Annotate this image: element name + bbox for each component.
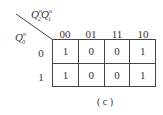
- cell-r1-c2: 0: [105, 64, 131, 88]
- cell-r0-c0: 1: [53, 40, 79, 64]
- row-header-1: 1: [36, 71, 46, 83]
- figure-caption: ( c ): [80, 96, 130, 107]
- row-variable-label: Qn0: [15, 31, 25, 45]
- cell-r0-c1: 0: [79, 40, 105, 64]
- cell-r0-c2: 0: [105, 40, 131, 64]
- column-variables-label: Qn2Qn1: [31, 8, 51, 22]
- cell-r1-c1: 0: [79, 64, 105, 88]
- karnaugh-map-grid: 1 0 0 1 1 0 0 1: [52, 39, 156, 87]
- cell-r1-c3: 1: [130, 64, 156, 88]
- row-header-0: 0: [36, 47, 46, 59]
- cell-r1-c0: 1: [53, 64, 79, 88]
- cell-r0-c3: 1: [130, 40, 156, 64]
